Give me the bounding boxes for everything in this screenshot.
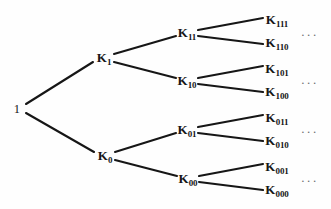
tree-edge-k10-to-k101 — [198, 66, 263, 78]
tree-node-k01: K01 — [177, 121, 196, 139]
node-subscript: 1 — [107, 57, 111, 67]
tree-node-k110: K110 — [266, 34, 289, 52]
tree-edge-k0-to-k00 — [115, 160, 177, 176]
binary-tree-diagram: 1K1K0K11K10K01K00K111K110K101K100K011K01… — [0, 0, 331, 209]
tree-edge-k0-to-k01 — [115, 133, 176, 152]
tree-node-k011: K011 — [266, 109, 289, 127]
node-base-symbol: K — [178, 171, 188, 186]
node-base-symbol: K — [265, 84, 275, 99]
node-base-symbol: K — [265, 182, 275, 197]
node-base-symbol: K — [265, 159, 275, 174]
node-subscript: 00 — [189, 178, 198, 188]
tree-node-k000: K000 — [265, 181, 288, 199]
tree-edge-root-to-k0 — [26, 113, 94, 152]
tree-node-k00: K00 — [178, 170, 197, 188]
node-subscript: 0 — [108, 155, 112, 165]
node-base-symbol: K — [266, 35, 276, 50]
node-base-symbol: K — [265, 133, 275, 148]
continuation-ellipsis-00: ... — [301, 170, 319, 186]
tree-edge-k00-to-k001 — [199, 164, 263, 176]
tree-edge-k11-to-k111 — [198, 18, 263, 30]
node-base-symbol: K — [98, 148, 108, 163]
tree-node-k101: K101 — [265, 60, 288, 78]
tree-node-k10: K10 — [177, 72, 196, 90]
tree-node-k111: K111 — [266, 11, 288, 29]
tree-edge-k1-to-k10 — [114, 62, 176, 78]
node-subscript: 010 — [276, 140, 289, 150]
node-subscript: 111 — [276, 19, 288, 29]
tree-edge-k11-to-k110 — [198, 36, 263, 44]
tree-edge-layer — [0, 0, 331, 209]
node-subscript: 10 — [188, 80, 197, 90]
node-subscript: 000 — [276, 189, 289, 199]
node-base-symbol: K — [265, 61, 275, 76]
tree-node-k1: K1 — [97, 49, 112, 67]
node-base-symbol: K — [177, 122, 187, 137]
node-subscript: 01 — [188, 129, 197, 139]
continuation-ellipsis-11: ... — [301, 24, 319, 40]
node-base-symbol: K — [177, 73, 187, 88]
tree-edge-k1-to-k11 — [114, 36, 176, 54]
tree-edge-root-to-k1 — [26, 62, 93, 104]
node-base-symbol: K — [266, 110, 276, 125]
node-subscript: 110 — [276, 42, 289, 52]
node-base-symbol: K — [266, 12, 276, 27]
continuation-ellipsis-10: ... — [301, 72, 319, 88]
node-subscript: 001 — [276, 166, 289, 176]
node-subscript: 11 — [188, 32, 196, 42]
node-subscript: 011 — [276, 117, 289, 127]
node-base-symbol: 1 — [14, 102, 20, 116]
tree-node-k001: K001 — [265, 158, 288, 176]
tree-node-k11: K11 — [178, 24, 197, 42]
tree-edge-k01-to-k010 — [198, 133, 263, 141]
continuation-ellipsis-01: ... — [301, 121, 319, 137]
node-subscript: 101 — [276, 68, 289, 78]
node-base-symbol: K — [178, 25, 188, 40]
node-base-symbol: K — [97, 50, 107, 65]
node-subscript: 100 — [276, 91, 289, 101]
tree-node-root: 1 — [14, 100, 20, 116]
tree-edge-k10-to-k100 — [198, 84, 263, 92]
tree-node-k010: K010 — [265, 132, 288, 150]
tree-node-k0: K0 — [98, 147, 113, 165]
tree-edge-k01-to-k011 — [198, 115, 263, 127]
tree-edge-k00-to-k000 — [199, 182, 263, 190]
tree-node-k100: K100 — [265, 83, 288, 101]
